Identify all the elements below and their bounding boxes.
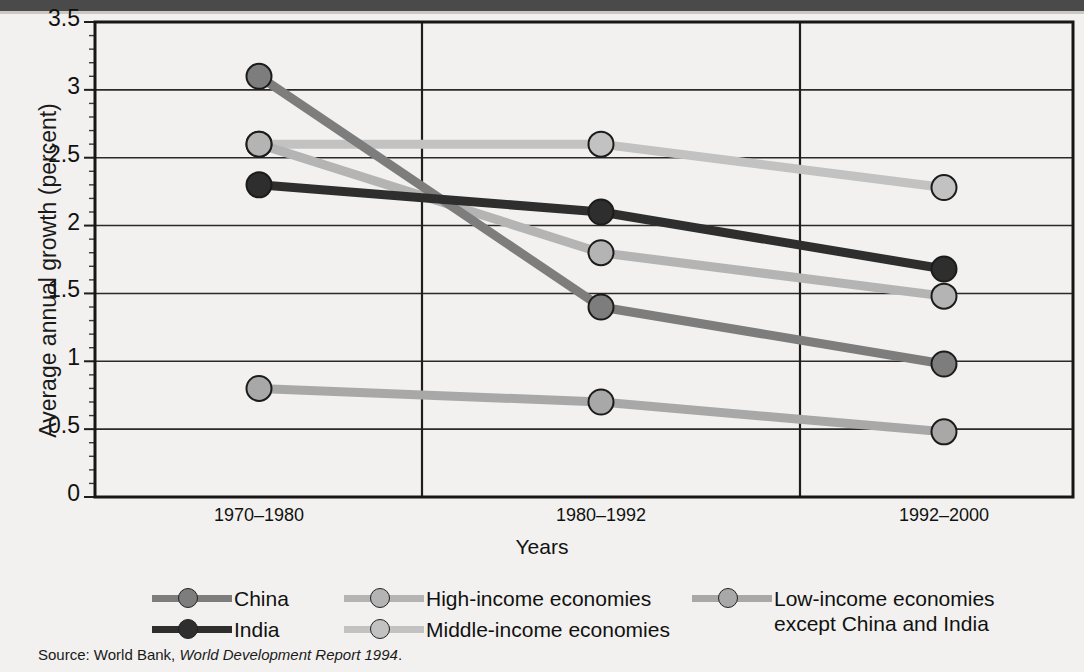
- source-title: World Development Report 1994: [179, 646, 397, 663]
- data-point-marker: [247, 64, 272, 89]
- data-point-marker: [589, 132, 614, 157]
- legend-label: Middle-income economies: [426, 614, 670, 642]
- data-point-marker: [932, 352, 957, 377]
- x-axis-title: Years: [0, 535, 1084, 559]
- data-point-marker: [932, 257, 957, 282]
- data-point-marker: [932, 419, 957, 444]
- legend-swatch-icon: [690, 583, 774, 613]
- legend-item[interactable]: India: [150, 614, 289, 645]
- source-suffix: .: [398, 646, 402, 663]
- legend-column: High-income economiesMiddle-income econo…: [342, 583, 670, 645]
- y-tick-label: 3.5: [0, 7, 80, 30]
- data-point-marker: [247, 132, 272, 157]
- chart-legend: ChinaIndiaHigh-income economiesMiddle-in…: [150, 583, 1050, 645]
- gridlines: [95, 22, 1073, 497]
- legend-marker-dot: [370, 619, 390, 639]
- legend-column: Low-income economies except China and In…: [690, 583, 995, 614]
- chart-page: 00.511.522.533.5 Average annual growth (…: [0, 0, 1084, 672]
- legend-label: India: [234, 614, 280, 642]
- legend-item[interactable]: High-income economies: [342, 583, 670, 614]
- data-point-marker: [589, 200, 614, 225]
- plot-frame: [95, 22, 1073, 497]
- legend-marker-dot: [178, 588, 198, 608]
- legend-label: China: [234, 583, 289, 611]
- legend-marker-dot: [370, 588, 390, 608]
- legend-item[interactable]: Middle-income economies: [342, 614, 670, 645]
- data-point-marker: [589, 390, 614, 415]
- legend-marker-dot: [178, 619, 198, 639]
- legend-swatch-icon: [342, 614, 426, 644]
- x-tick-label: 1970–1980: [159, 505, 359, 526]
- legend-item[interactable]: China: [150, 583, 289, 614]
- legend-swatch-icon: [342, 583, 426, 613]
- data-point-marker: [247, 172, 272, 197]
- legend-label: High-income economies: [426, 583, 651, 611]
- data-point-marker: [247, 376, 272, 401]
- x-tick-label: 1980–1992: [501, 505, 701, 526]
- data-point-marker: [932, 284, 957, 309]
- plot-area: [0, 0, 1084, 672]
- data-point-marker: [932, 175, 957, 200]
- data-point-marker: [589, 295, 614, 320]
- legend-marker-dot: [718, 588, 738, 608]
- y-tick-label: 0: [0, 482, 80, 505]
- axis-ticks: [84, 22, 95, 497]
- legend-item[interactable]: Low-income economies except China and In…: [690, 583, 995, 614]
- y-axis-title: Average annual growth (percent): [35, 61, 62, 481]
- legend-column: ChinaIndia: [150, 583, 289, 645]
- x-tick-label: 1992–2000: [844, 505, 1044, 526]
- source-prefix: Source: World Bank,: [38, 646, 179, 663]
- legend-swatch-icon: [150, 583, 234, 613]
- legend-swatch-icon: [150, 614, 234, 644]
- source-note: Source: World Bank, World Development Re…: [38, 646, 402, 663]
- data-point-marker: [589, 240, 614, 265]
- legend-label: Low-income economies except China and In…: [774, 583, 995, 636]
- figure: 00.511.522.533.5 Average annual growth (…: [0, 0, 1084, 672]
